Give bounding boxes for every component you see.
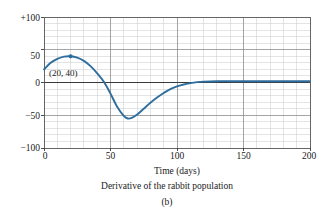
figure-panel-b: +100 50 0 −50 −100 0 50 100 150 200 (20,… (0, 0, 334, 215)
y-tick-label-100: +100 (20, 13, 40, 23)
derivative-rabbit-population-chart: +100 50 0 −50 −100 0 50 100 150 200 (20,… (0, 0, 334, 215)
figure-caption: Derivative of the rabbit population (101, 181, 233, 191)
x-tick-label-200: 200 (302, 151, 317, 161)
x-tick-label-150: 150 (236, 151, 251, 161)
x-tick-label-100: 100 (170, 151, 185, 161)
y-tick-label-0: 0 (35, 78, 40, 88)
y-tick-label-50: 50 (31, 51, 41, 61)
y-tick-label-neg50: −50 (25, 111, 40, 121)
x-axis-title: Time (days) (154, 166, 200, 177)
x-tick-label-0: 0 (43, 151, 48, 161)
annotation-point-label: (20, 40) (49, 68, 78, 78)
y-tick-label-neg100: −100 (20, 143, 40, 153)
x-tick-label-50: 50 (106, 151, 116, 161)
data-point-marker (69, 54, 73, 58)
panel-label: (b) (161, 197, 172, 208)
